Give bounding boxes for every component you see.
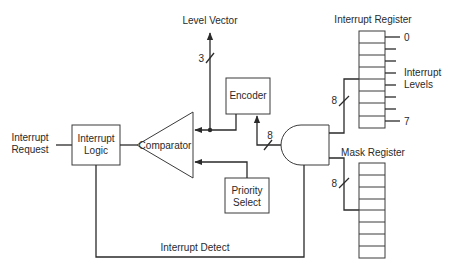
interrupt-levels-label-2: Levels: [404, 79, 433, 90]
level-0-label: 0: [404, 32, 410, 43]
bus-width-8-mask-register: 8: [331, 178, 337, 189]
interrupt-logic-label: Interrupt: [77, 133, 114, 144]
comparator-label: Comparator: [139, 140, 192, 151]
and-gate: [281, 125, 329, 165]
interrupt-logic-label-2: Logic: [84, 145, 108, 156]
bus-width-8-interrupt-register: 8: [331, 95, 337, 106]
bus-width-8-encoder: 8: [267, 130, 273, 141]
interrupt-levels-label: Interrupt: [404, 67, 441, 78]
interrupt-register-label: Interrupt Register: [334, 14, 412, 25]
interrupt-detect-label: Interrupt Detect: [161, 242, 230, 253]
interrupt-request-label: Interrupt: [11, 132, 48, 143]
interrupt-controller-diagram: Interrupt Request Interrupt Logic Compar…: [0, 0, 454, 273]
level-7-label: 7: [404, 116, 410, 127]
interrupt-request-label-2: Request: [11, 144, 48, 155]
interrupt-register: [359, 31, 385, 128]
bus-width-3: 3: [198, 53, 204, 64]
encoder-to-comparator-line: [195, 114, 236, 130]
and-to-interrupt-register-line: [329, 79, 359, 133]
mask-register-label: Mask Register: [341, 147, 406, 158]
encoder-block: Encoder: [226, 78, 270, 114]
priority-select-label: Priority: [231, 185, 262, 196]
priority-select-block: Priority Select: [225, 178, 269, 213]
interrupt-level-ticks: [385, 37, 400, 121]
comparator-block: Comparator: [137, 112, 193, 178]
priority-to-comparator-line: [195, 162, 247, 178]
encoder-label: Encoder: [229, 90, 267, 101]
mask-register: [359, 163, 385, 258]
priority-select-label-2: Select: [233, 197, 261, 208]
interrupt-logic-block: Interrupt Logic: [72, 125, 120, 165]
level-vector-label: Level Vector: [182, 15, 238, 26]
junction-dot: [208, 128, 212, 132]
